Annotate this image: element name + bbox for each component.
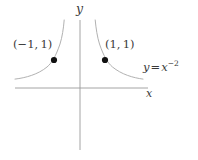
- paren-close: ): [130, 37, 135, 51]
- coord-y-value: 1: [40, 37, 47, 51]
- plot-canvas: [0, 0, 198, 160]
- x-axis-label: x: [146, 88, 152, 99]
- point-label-right: (1, 1): [105, 39, 135, 51]
- point-label-left: (−1, 1): [13, 39, 52, 51]
- y-axis-label: y: [76, 3, 83, 16]
- equation-equals-sign: =: [150, 60, 162, 74]
- equation-exponent: −2: [168, 59, 179, 68]
- math-figure-y-equals-x-to-the-minus-two: y x (−1, 1) (1, 1) y=x−2: [0, 0, 198, 160]
- curve-equation-label: y=x−2: [143, 62, 179, 74]
- point-marker-right: [102, 57, 108, 63]
- coord-comma: ,: [34, 37, 38, 51]
- point-marker-left: [51, 57, 57, 63]
- equation-y-symbol: y: [143, 60, 150, 74]
- coord-y-value: 1: [123, 37, 130, 51]
- coord-x-value: −1: [18, 37, 35, 51]
- paren-close: ): [48, 37, 53, 51]
- coord-x-value: 1: [110, 37, 117, 51]
- coord-comma: ,: [117, 37, 121, 51]
